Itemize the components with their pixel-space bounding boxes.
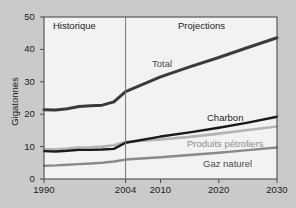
series-label-total: Total <box>152 58 172 69</box>
projection-region-label: Projections <box>178 20 225 31</box>
series-label-oil: Produits pétroliers <box>187 138 264 149</box>
x-tick-label: 1990 <box>24 184 64 195</box>
series-label-coal: Charbon <box>207 112 243 123</box>
y-tick-label: 10 <box>15 141 35 152</box>
x-tick-label: 2030 <box>257 184 296 195</box>
y-tick-label: 0 <box>15 173 35 184</box>
chart-canvas <box>0 0 296 208</box>
plot-background <box>44 17 277 179</box>
y-tick-label: 20 <box>15 108 35 119</box>
series-label-gas: Gaz naturel <box>203 158 252 169</box>
x-tick-label: 2020 <box>199 184 239 195</box>
y-tick-label: 50 <box>15 11 35 22</box>
screenshot-root: Gigatonnes 01020304050 19902004201020202… <box>0 0 296 208</box>
y-tick-label: 40 <box>15 43 35 54</box>
x-tick-label: 2010 <box>141 184 181 195</box>
historical-region-label: Historique <box>53 20 96 31</box>
emissions-line-chart: Gigatonnes 01020304050 19902004201020202… <box>0 0 296 208</box>
y-tick-label: 30 <box>15 76 35 87</box>
